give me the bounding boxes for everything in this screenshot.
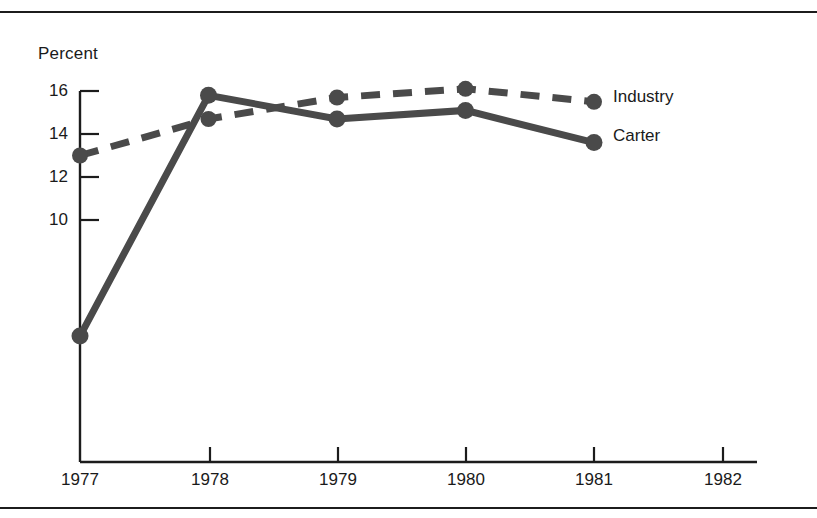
x-tick-label-1982: 1982 xyxy=(688,470,758,490)
chart-figure: Percent 16 14 12 10 1977 1 xyxy=(0,0,817,518)
plot-area xyxy=(0,0,817,518)
y-tick-label-16: 16 xyxy=(28,81,68,101)
y-tick-label-12: 12 xyxy=(28,167,68,187)
series-label-industry: Industry xyxy=(613,87,673,107)
x-tick-label-1981: 1981 xyxy=(559,470,629,490)
x-tick-marks xyxy=(210,447,723,462)
x-tick-label-1977: 1977 xyxy=(45,470,115,490)
y-tick-label-10: 10 xyxy=(28,210,68,230)
y-tick-label-14: 14 xyxy=(28,124,68,144)
x-tick-label-1980: 1980 xyxy=(431,470,501,490)
x-tick-label-1979: 1979 xyxy=(303,470,373,490)
x-tick-label-1978: 1978 xyxy=(175,470,245,490)
series-label-carter: Carter xyxy=(613,126,660,146)
